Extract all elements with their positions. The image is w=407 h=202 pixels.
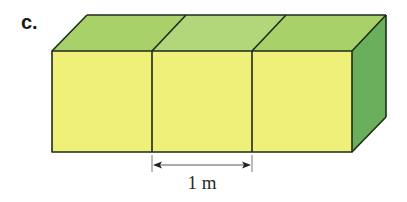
top-faces bbox=[52, 15, 386, 51]
front-faces bbox=[52, 51, 352, 152]
front-face-cube-2 bbox=[152, 51, 252, 152]
dimension-marker: 1 m bbox=[152, 155, 252, 193]
front-face-cube-1 bbox=[52, 51, 152, 152]
cube-prism-diagram: 1 m bbox=[0, 0, 407, 202]
front-face-cube-3 bbox=[252, 51, 352, 152]
dimension-label: 1 m bbox=[187, 172, 216, 193]
